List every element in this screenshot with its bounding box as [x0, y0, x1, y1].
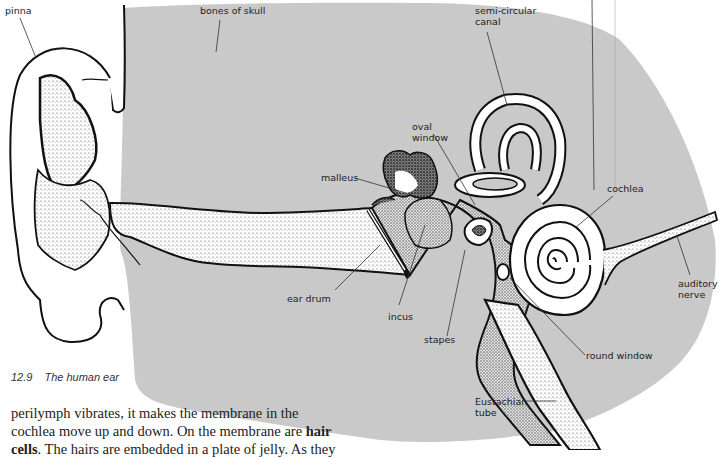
body-line-1: perilymph vibrates, it makes the membran… — [11, 404, 419, 422]
round-window — [497, 264, 509, 280]
label-semi-circular-canal: semi-circular canal — [475, 5, 536, 27]
figure-caption: 12.9The human ear — [11, 371, 119, 383]
label-round-window: round window — [586, 350, 653, 361]
label-auditory-nerve: auditory nerve — [678, 278, 718, 300]
label-cochlea: cochlea — [607, 183, 644, 194]
body-line-3: cells. The hairs are embedded in a plate… — [11, 440, 419, 458]
label-pinna: pinna — [5, 5, 32, 16]
body-paragraph: perilymph vibrates, it makes the membran… — [11, 404, 419, 458]
label-eustachian-tube: Eustachian tube — [475, 396, 527, 418]
label-ear-drum: ear drum — [287, 293, 331, 304]
figure-number: 12.9 — [11, 371, 32, 383]
term-cells: cells — [11, 441, 38, 457]
label-stapes: stapes — [424, 334, 455, 345]
label-bones-of-skull: bones of skull — [200, 5, 265, 16]
label-oval-window: oval window — [412, 121, 448, 143]
incus — [405, 198, 452, 248]
body-line-3-text: . The hairs are embedded in a plate of j… — [38, 441, 336, 457]
term-hair: hair — [306, 423, 332, 439]
body-line-2-text: cochlea move up and down. On the membran… — [11, 423, 306, 439]
body-line-2: cochlea move up and down. On the membran… — [11, 422, 419, 440]
label-malleus: malleus — [321, 172, 358, 183]
figure-title: The human ear — [44, 371, 119, 383]
label-incus: incus — [388, 311, 413, 322]
cochlea — [510, 205, 605, 315]
